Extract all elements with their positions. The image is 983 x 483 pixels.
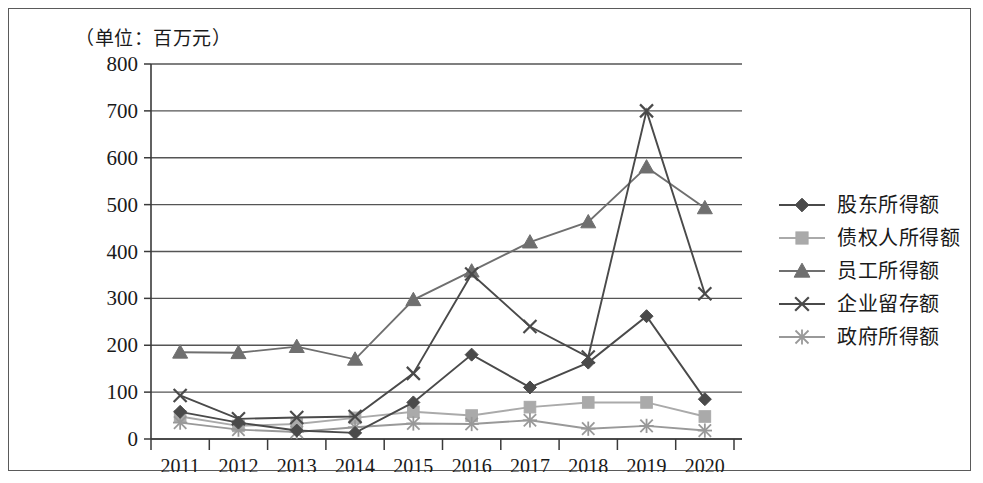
asterisk-marker (406, 416, 420, 430)
x-axis-tick-label: 2011 (161, 455, 200, 472)
x-marker (174, 389, 187, 402)
chart-frame: （单位：百万元） 0100200300400500600700800201120… (8, 8, 971, 471)
square-marker (524, 401, 536, 413)
x-marker (523, 320, 536, 333)
legend-label: 债权人所得额 (837, 227, 960, 249)
x-axis-tick-label: 2019 (627, 455, 667, 472)
legend-label: 员工所得额 (837, 260, 940, 282)
triangle-marker (697, 200, 712, 213)
x-axis-tick-label: 2015 (393, 455, 433, 472)
x-axis-tick-label: 2017 (510, 455, 550, 472)
series-line-diamond (180, 316, 705, 433)
asterisk-marker (795, 330, 810, 345)
y-axis-tick-label: 400 (107, 240, 139, 264)
line-chart: 0100200300400500600700800201120122013201… (9, 9, 972, 472)
square-marker (641, 397, 653, 409)
legend-label: 政府所得额 (837, 326, 940, 348)
legend-label: 股东所得额 (837, 194, 940, 216)
diamond-marker (698, 393, 711, 406)
asterisk-marker (639, 419, 653, 433)
diamond-marker (795, 198, 809, 212)
asterisk-marker (581, 422, 595, 436)
asterisk-marker (523, 413, 537, 427)
y-axis-tick-label: 100 (107, 380, 139, 404)
series-line-square (180, 402, 705, 425)
y-axis-tick-label: 800 (107, 52, 139, 76)
square-marker (582, 397, 594, 409)
x-axis-tick-label: 2016 (452, 455, 492, 472)
square-marker (796, 232, 808, 244)
asterisk-marker (465, 417, 479, 431)
x-marker (407, 367, 420, 380)
x-axis-tick-label: 2018 (568, 455, 608, 472)
triangle-marker (639, 160, 654, 173)
y-axis-tick-label: 0 (128, 427, 139, 451)
y-axis-tick-label: 500 (107, 193, 139, 217)
asterisk-marker (698, 423, 712, 437)
x-axis-tick-label: 2013 (277, 455, 317, 472)
x-axis-tick-label: 2020 (685, 455, 725, 472)
x-axis-tick-label: 2014 (335, 455, 375, 472)
x-axis-tick-label: 2012 (218, 455, 258, 472)
y-axis-tick-label: 600 (107, 146, 139, 170)
legend-label: 企业留存额 (837, 293, 940, 315)
y-axis-tick-label: 200 (107, 333, 139, 357)
y-axis-tick-label: 300 (107, 286, 139, 310)
square-marker (699, 411, 711, 423)
y-axis-tick-label: 700 (107, 99, 139, 123)
